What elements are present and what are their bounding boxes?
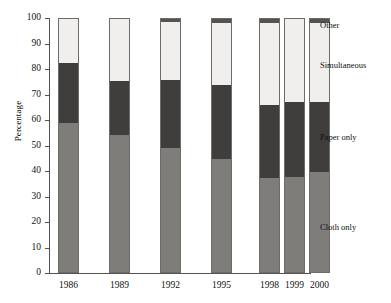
x-tick-label-1986: 1986 xyxy=(47,280,91,290)
bar-segment-simultaneous[interactable] xyxy=(59,19,78,63)
bar-1998[interactable] xyxy=(259,18,280,273)
y-tick: 20 xyxy=(45,222,49,223)
bar-segment-cloth[interactable] xyxy=(161,148,180,272)
y-tick-label: 100 xyxy=(27,12,41,22)
x-axis-line xyxy=(49,273,311,274)
y-tick: 80 xyxy=(45,69,49,70)
x-tick-label-1992: 1992 xyxy=(149,280,193,290)
y-tick-label: 20 xyxy=(32,216,42,226)
bar-segment-paper[interactable] xyxy=(59,63,78,122)
bar-segment-paper[interactable] xyxy=(110,81,129,135)
bar-1992[interactable] xyxy=(160,18,181,273)
bar-segment-paper[interactable] xyxy=(161,80,180,148)
y-tick-label: 0 xyxy=(36,267,41,277)
bar-segment-simultaneous[interactable] xyxy=(285,19,304,102)
y-tick-label: 80 xyxy=(32,63,42,73)
bar-segment-paper[interactable] xyxy=(260,105,279,178)
bar-segment-paper[interactable] xyxy=(212,85,231,160)
bar-segment-paper[interactable] xyxy=(285,102,304,177)
x-tick-label-1989: 1989 xyxy=(98,280,142,290)
y-tick-label: 10 xyxy=(32,242,42,252)
y-tick: 60 xyxy=(45,120,49,121)
x-tick-label-2000: 2000 xyxy=(298,280,342,290)
y-tick: 50 xyxy=(45,146,49,147)
y-tick-label: 50 xyxy=(32,140,42,150)
legend-item-other[interactable]: Other xyxy=(320,20,339,30)
bar-1995[interactable] xyxy=(211,18,232,273)
bar-segment-simultaneous[interactable] xyxy=(161,22,180,80)
legend-item-paper-only[interactable]: Paper only xyxy=(320,132,357,142)
chart-figure: Percentage 0102030405060708090100 198619… xyxy=(0,0,391,303)
bar-segment-simultaneous[interactable] xyxy=(260,23,279,105)
bar-segment-cloth[interactable] xyxy=(110,135,129,272)
bar-segment-cloth[interactable] xyxy=(59,123,78,272)
bar-segment-simultaneous[interactable] xyxy=(212,23,231,85)
y-axis-line xyxy=(49,18,50,274)
y-tick-label: 40 xyxy=(32,165,42,175)
y-tick-label: 90 xyxy=(32,38,42,48)
y-tick: 0 xyxy=(45,273,49,274)
bar-1989[interactable] xyxy=(109,18,130,273)
plot-area: 0102030405060708090100 19861989199219951… xyxy=(49,18,311,273)
x-tick-label-1995: 1995 xyxy=(200,280,244,290)
bar-segment-simultaneous[interactable] xyxy=(110,19,129,81)
bar-segment-cloth[interactable] xyxy=(212,159,231,272)
y-tick: 10 xyxy=(45,248,49,249)
y-tick: 90 xyxy=(45,44,49,45)
bar-1999[interactable] xyxy=(284,18,305,273)
y-tick: 100 xyxy=(45,18,49,19)
y-tick: 40 xyxy=(45,171,49,172)
y-tick-label: 30 xyxy=(32,191,42,201)
y-axis-title: Percentage xyxy=(13,71,23,171)
bar-segment-cloth[interactable] xyxy=(285,177,304,272)
y-tick: 70 xyxy=(45,95,49,96)
legend-item-simultaneous[interactable]: Simultaneous xyxy=(320,60,366,70)
y-tick-label: 70 xyxy=(32,89,42,99)
bar-2000[interactable] xyxy=(309,18,330,273)
bar-segment-cloth[interactable] xyxy=(260,178,279,272)
legend-item-cloth-only[interactable]: Cloth only xyxy=(320,222,356,232)
bar-1986[interactable] xyxy=(58,18,79,273)
y-tick-label: 60 xyxy=(32,114,42,124)
y-tick: 30 xyxy=(45,197,49,198)
